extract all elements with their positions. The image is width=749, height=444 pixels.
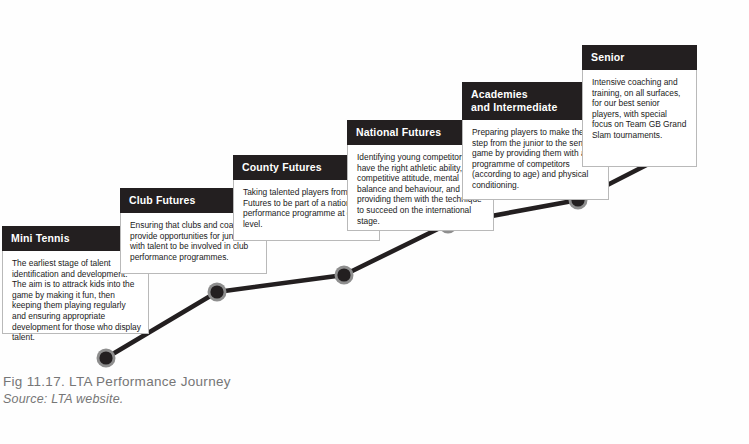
journey-marker-halo xyxy=(97,349,116,368)
journey-marker-2 xyxy=(210,285,223,298)
figure-canvas: Mini Tennis The earliest stage of talent… xyxy=(0,0,749,444)
journey-marker-halo xyxy=(208,283,227,302)
figure-caption-source: Source: LTA website. xyxy=(3,391,423,408)
stage-description-senior: Intensive coaching and training, on all … xyxy=(582,70,697,167)
stage-card-senior: Senior Intensive coaching and training, … xyxy=(582,45,697,167)
stage-description-text: Intensive coaching and training, on all … xyxy=(592,77,689,141)
journey-marker-halo xyxy=(335,266,354,285)
stage-title-senior: Senior xyxy=(582,45,697,70)
figure-caption-title: Fig 11.17. LTA Performance Journey xyxy=(3,373,423,391)
journey-marker-1 xyxy=(99,351,112,364)
figure-caption: Fig 11.17. LTA Performance Journey Sourc… xyxy=(3,373,423,408)
journey-marker-3 xyxy=(337,268,350,281)
